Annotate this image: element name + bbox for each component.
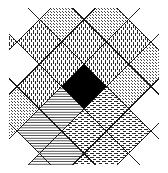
- figure-root: [0, 0, 168, 173]
- diamond-lattice-figure: [0, 0, 168, 173]
- lattice-group: [0, 0, 168, 173]
- diamond-cells-layer: [0, 0, 168, 173]
